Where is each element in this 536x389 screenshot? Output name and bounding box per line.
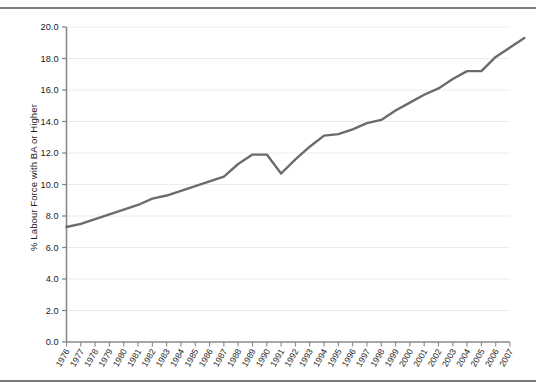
y-axis-tick-label: 8.0	[46, 211, 59, 221]
y-axis-tick-label: 12.0	[41, 148, 59, 158]
y-axis-tick-label: 16.0	[41, 85, 59, 95]
y-axis-tick-label: 18.0	[41, 54, 59, 64]
y-axis-tick-label: 2.0	[46, 306, 59, 316]
y-axis-tick-label: 14.0	[41, 117, 59, 127]
y-axis-tick-label: 4.0	[46, 274, 59, 284]
y-axis-tick-label: 0.0	[46, 337, 59, 347]
data-series-line	[67, 38, 525, 227]
y-axis-tick-label: 6.0	[46, 243, 59, 253]
x-axis-tick-label: 2007	[497, 347, 515, 369]
y-axis-tick-label: 10.0	[41, 180, 59, 190]
chart-figure: % Labour Force with BA or Higher 0.02.04…	[0, 0, 536, 389]
plot-area: % Labour Force with BA or Higher 0.02.04…	[0, 0, 536, 389]
line-chart-svg: 0.02.04.06.08.010.012.014.016.018.020.01…	[0, 0, 536, 389]
y-axis-tick-label: 20.0	[41, 22, 59, 32]
